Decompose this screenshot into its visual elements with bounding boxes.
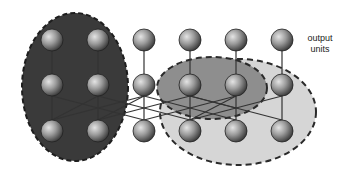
- output-units-label-line2: units: [300, 44, 340, 55]
- dark-left-region: [22, 13, 128, 161]
- input-neuron: [179, 120, 201, 142]
- medium-center-region: [157, 57, 267, 119]
- output-neuron: [179, 29, 201, 51]
- hidden-neuron: [41, 74, 63, 96]
- output-neuron: [225, 29, 247, 51]
- input-neuron: [87, 120, 109, 142]
- input-neuron: [41, 120, 63, 142]
- input-neuron: [133, 120, 155, 142]
- output-neuron: [41, 29, 63, 51]
- output-units-label: output units: [300, 33, 340, 55]
- network-diagram: [0, 0, 342, 174]
- output-neuron: [133, 29, 155, 51]
- hidden-neuron: [179, 74, 201, 96]
- hidden-neuron: [271, 74, 293, 96]
- output-neuron: [271, 29, 293, 51]
- hidden-neuron: [87, 74, 109, 96]
- hidden-neuron: [133, 74, 155, 96]
- input-neuron: [271, 120, 293, 142]
- output-units-label-line1: output: [300, 33, 340, 44]
- input-neuron: [225, 120, 247, 142]
- output-neuron: [87, 29, 109, 51]
- hidden-neuron: [225, 74, 247, 96]
